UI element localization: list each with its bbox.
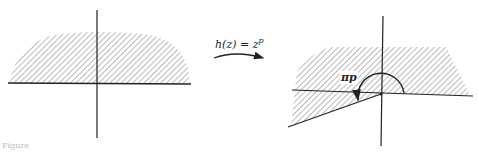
- diagram-canvas: [0, 0, 479, 152]
- origin-point: [379, 92, 382, 95]
- upper-half-plane-region: [10, 32, 190, 83]
- figure-caption: Figure: [2, 141, 29, 150]
- right-panel: [288, 16, 473, 146]
- angle-label: πp: [340, 71, 358, 84]
- mapping-exponent: p: [258, 36, 263, 45]
- left-horizontal-axis: [8, 83, 191, 84]
- mapping-label: h(z) = zp: [215, 36, 264, 51]
- left-panel: [8, 10, 191, 138]
- sector-region: [291, 47, 470, 126]
- mapping-arrow: [214, 54, 263, 58]
